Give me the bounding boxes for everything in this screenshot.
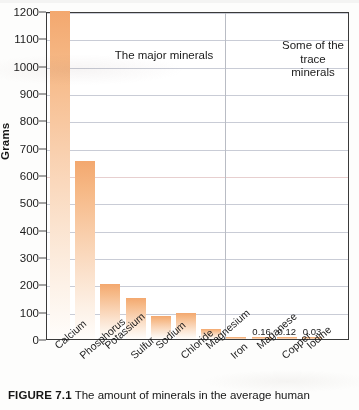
bar	[226, 337, 246, 339]
y-axis-tick-mark	[39, 176, 46, 177]
y-axis-tick-label: 400	[20, 225, 39, 237]
y-axis-tick-label: 800	[20, 115, 39, 127]
y-axis-tick-mark	[39, 203, 46, 204]
y-axis-title: Grams	[0, 123, 11, 160]
y-axis-tick-mark	[39, 39, 46, 40]
y-axis-tick-label: 500	[20, 197, 39, 209]
y-axis-tick-mark	[39, 66, 46, 67]
y-axis-tick-mark	[39, 285, 46, 286]
bar-series: 0.160.120.03	[47, 13, 348, 339]
y-axis-tick-mark	[39, 230, 46, 231]
y-axis: Grams 0100200300400500600700800900100011…	[0, 12, 46, 340]
y-axis-tick-label: 200	[20, 279, 39, 291]
y-axis-tick-label: 900	[20, 88, 39, 100]
x-axis-tick-label: Iron	[228, 340, 250, 361]
plot-area: The major minerals Some of the trace min…	[46, 12, 349, 340]
bar	[75, 161, 95, 339]
figure-number: FIGURE 7.1	[8, 389, 72, 401]
x-axis-labels: CalciumPhosphorusPotassiumSulfurSodiumCh…	[0, 340, 359, 385]
y-axis-tick-label: 100	[20, 307, 39, 319]
y-axis-tick-label: 600	[20, 170, 39, 182]
y-axis-tick-label: 1000	[13, 61, 39, 73]
y-axis-tick-label: 300	[20, 252, 39, 264]
figure-container: Grams 0100200300400500600700800900100011…	[0, 0, 359, 410]
y-axis-tick-mark	[39, 121, 46, 122]
y-axis-tick-mark	[39, 312, 46, 313]
y-axis-tick-label: 1100	[14, 33, 39, 45]
y-axis-tick-label: 700	[20, 143, 39, 155]
y-axis-tick-mark	[39, 258, 46, 259]
y-axis-tick-mark	[39, 94, 46, 95]
y-axis-tick-mark	[39, 148, 46, 149]
bar	[50, 11, 70, 339]
caption-text: The amount of minerals in the average hu…	[72, 389, 310, 401]
y-axis-tick-mark	[39, 12, 46, 13]
y-axis-tick-label: 1200	[13, 6, 39, 18]
figure-caption: FIGURE 7.1 The amount of minerals in the…	[8, 388, 356, 402]
